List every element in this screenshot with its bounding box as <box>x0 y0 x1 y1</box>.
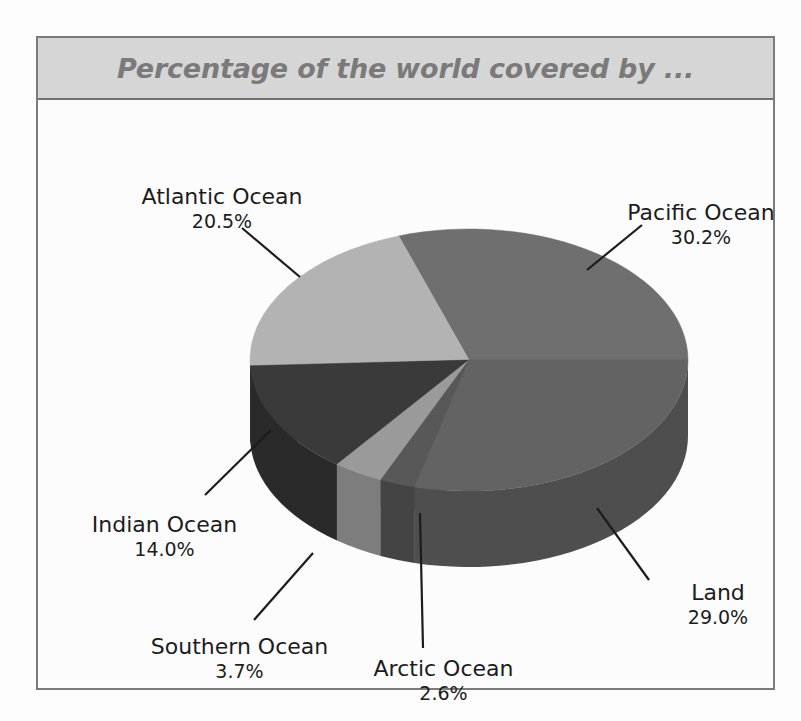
slice-label-name: Atlantic Ocean <box>102 184 342 210</box>
slice-label-value: 2.6% <box>326 682 561 704</box>
slice-label-name: Land <box>618 580 801 606</box>
slice-label-name: Indian Ocean <box>52 512 277 538</box>
slice-label-indian-ocean: Indian Ocean 14.0% <box>52 512 277 560</box>
leader-line-atlantic-ocean <box>242 228 300 277</box>
slice-label-atlantic-ocean: Atlantic Ocean 20.5% <box>102 184 342 232</box>
chart-title-bar: Percentage of the world covered by ... <box>38 38 773 100</box>
chart-title: Percentage of the world covered by ... <box>117 53 694 84</box>
slice-label-value: 30.2% <box>586 226 801 248</box>
page-root: Percentage of the world covered by ... A… <box>0 0 801 721</box>
pie-top-faces <box>250 229 688 491</box>
chart-plot-area: Atlantic Ocean 20.5% Pacific Ocean 30.2%… <box>38 100 773 688</box>
slice-label-name: Arctic Ocean <box>326 656 561 682</box>
slice-label-pacific-ocean: Pacific Ocean 30.2% <box>586 200 801 248</box>
slice-label-value: 20.5% <box>102 210 342 232</box>
slice-label-arctic-ocean: Arctic Ocean 2.6% <box>326 656 561 704</box>
leader-line-southern-ocean <box>254 553 313 620</box>
slice-label-land: Land 29.0% <box>618 580 801 628</box>
slice-label-name: Pacific Ocean <box>586 200 801 226</box>
slice-label-value: 14.0% <box>52 538 277 560</box>
slice-label-value: 29.0% <box>618 606 801 628</box>
chart-figure-frame: Percentage of the world covered by ... A… <box>36 36 775 690</box>
